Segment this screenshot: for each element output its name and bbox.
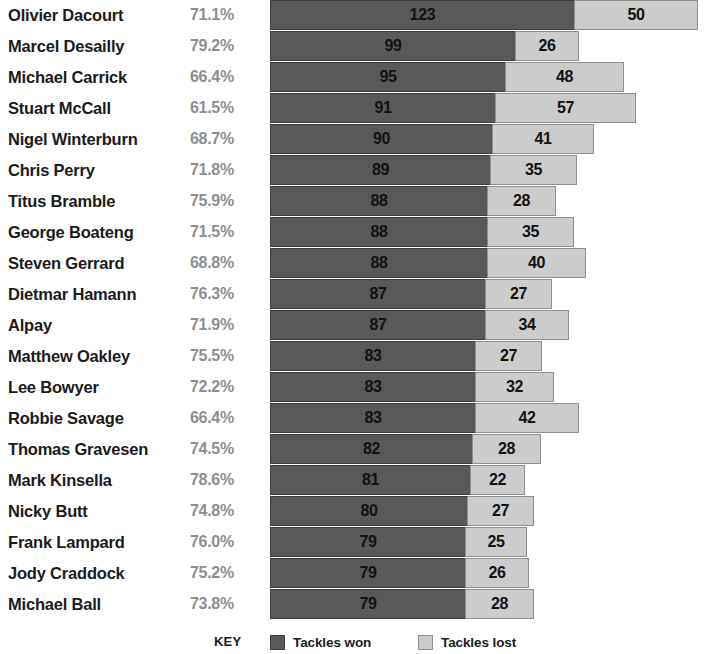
player-name: Matthew Oakley [8,341,130,371]
bar-segment-tackles-won: 88 [270,186,488,216]
bar-value-tackles-won: 83 [364,348,381,364]
bar-value-tackles-won: 123 [410,7,436,23]
chart-row: Jody Craddock75.2%7926 [0,558,716,588]
stacked-bar: 8727 [270,279,552,309]
bar-value-tackles-lost: 42 [518,410,535,426]
bar-segment-tackles-lost: 41 [492,124,594,154]
player-name: Lee Bowyer [8,372,99,402]
bar-value-tackles-lost: 40 [528,255,545,271]
chart-row: Stuart McCall61.5%9157 [0,93,716,123]
legend-item-tackles-won: Tackles won [270,632,371,652]
player-name: Titus Bramble [8,186,115,216]
stacked-bar: 8342 [270,403,579,433]
success-percentage: 61.5% [190,93,256,123]
bar-segment-tackles-won: 81 [270,465,471,495]
bar-segment-tackles-won: 91 [270,93,496,123]
bar-segment-tackles-lost: 32 [475,372,554,402]
chart-row: Steven Gerrard68.8%8840 [0,248,716,278]
bar-value-tackles-lost: 28 [513,193,530,209]
chart-row: Alpay71.9%8734 [0,310,716,340]
bar-segment-tackles-lost: 48 [505,62,624,92]
chart-row: Lee Bowyer72.2%8332 [0,372,716,402]
player-name: Mark Kinsella [8,465,112,495]
success-percentage: 78.6% [190,465,256,495]
bar-value-tackles-won: 87 [369,317,386,333]
player-name: Alpay [8,310,52,340]
bar-segment-tackles-lost: 25 [465,527,527,557]
bar-segment-tackles-lost: 34 [485,310,569,340]
bar-value-tackles-lost: 48 [556,69,573,85]
bar-value-tackles-won: 88 [370,224,387,240]
chart-row: Nicky Butt74.8%8027 [0,496,716,526]
bar-segment-tackles-lost: 27 [475,341,542,371]
success-percentage: 74.5% [190,434,256,464]
player-name: Nigel Winterburn [8,124,138,154]
bar-value-tackles-won: 87 [369,286,386,302]
bar-value-tackles-lost: 25 [487,534,504,550]
stacked-bar: 8840 [270,248,586,278]
bar-value-tackles-won: 81 [362,472,379,488]
stacked-bar: 8332 [270,372,554,402]
bar-value-tackles-won: 83 [364,379,381,395]
bar-value-tackles-won: 79 [359,565,376,581]
success-percentage: 76.0% [190,527,256,557]
stacked-bar: 8228 [270,434,541,464]
bar-value-tackles-won: 83 [364,410,381,426]
legend-label-tackles-lost: Tackles lost [441,635,516,650]
bar-segment-tackles-lost: 28 [472,434,541,464]
bar-segment-tackles-lost: 27 [467,496,534,526]
chart-legend: KEY Tackles won Tackles lost [0,632,716,654]
bar-segment-tackles-won: 83 [270,372,476,402]
tackles-chart: Olivier Dacourt71.1%12350Marcel Desailly… [0,0,716,654]
stacked-bar: 8122 [270,465,525,495]
stacked-bar: 8027 [270,496,534,526]
player-name: Robbie Savage [8,403,124,433]
legend-label-tackles-won: Tackles won [293,635,371,650]
bar-value-tackles-lost: 27 [492,503,509,519]
chart-row: Matthew Oakley75.5%8327 [0,341,716,371]
bar-segment-tackles-won: 79 [270,558,466,588]
bar-value-tackles-lost: 41 [534,131,551,147]
player-name: George Boateng [8,217,134,247]
stacked-bar: 8935 [270,155,577,185]
bar-value-tackles-lost: 35 [525,162,542,178]
chart-row: Frank Lampard76.0%7925 [0,527,716,557]
bar-segment-tackles-lost: 42 [475,403,579,433]
bar-value-tackles-lost: 34 [518,317,535,333]
stacked-bar: 7928 [270,589,534,619]
bar-value-tackles-lost: 26 [488,565,505,581]
stacked-bar: 9548 [270,62,624,92]
stacked-bar: 9157 [270,93,636,123]
bar-segment-tackles-won: 95 [270,62,506,92]
success-percentage: 76.3% [190,279,256,309]
bar-segment-tackles-lost: 40 [487,248,586,278]
bar-segment-tackles-lost: 28 [487,186,556,216]
success-percentage: 75.2% [190,558,256,588]
bar-segment-tackles-won: 82 [270,434,473,464]
chart-row: Robbie Savage66.4%8342 [0,403,716,433]
chart-row: Titus Bramble75.9%8828 [0,186,716,216]
bar-segment-tackles-won: 79 [270,589,466,619]
bar-value-tackles-lost: 57 [557,100,574,116]
bar-segment-tackles-won: 79 [270,527,466,557]
bar-segment-tackles-won: 83 [270,341,476,371]
bar-segment-tackles-lost: 57 [495,93,636,123]
chart-row: Mark Kinsella78.6%8122 [0,465,716,495]
bar-segment-tackles-won: 99 [270,31,516,61]
bar-segment-tackles-won: 83 [270,403,476,433]
legend-key-label: KEY [214,632,241,652]
bar-segment-tackles-won: 80 [270,496,468,526]
chart-row: Thomas Gravesen74.5%8228 [0,434,716,464]
player-name: Michael Ball [8,589,101,619]
success-percentage: 75.9% [190,186,256,216]
success-percentage: 71.9% [190,310,256,340]
success-percentage: 68.7% [190,124,256,154]
success-percentage: 71.8% [190,155,256,185]
player-name: Michael Carrick [8,62,127,92]
bar-value-tackles-lost: 50 [627,7,644,23]
player-name: Stuart McCall [8,93,111,123]
player-name: Chris Perry [8,155,95,185]
bar-segment-tackles-won: 87 [270,279,486,309]
success-percentage: 74.8% [190,496,256,526]
bar-value-tackles-won: 91 [374,100,391,116]
